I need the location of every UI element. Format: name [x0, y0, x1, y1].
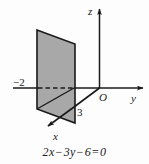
- figure-caption: 2x−3y−6=0: [0, 145, 149, 160]
- x-axis-back-segment: [74, 88, 100, 107]
- x-axis-label: x: [52, 130, 58, 142]
- x-intercept-label: 3: [77, 106, 83, 118]
- caption-minus-2: −: [76, 145, 85, 159]
- y-intercept-label: −2: [13, 76, 25, 88]
- figure-container: z y x O −2 3 2x−3y−6=0: [0, 0, 149, 164]
- caption-minus-1: −: [55, 145, 64, 159]
- shaded-plane: [37, 30, 75, 123]
- origin-label: O: [99, 91, 107, 103]
- y-axis-label: y: [130, 92, 136, 104]
- caption-equals: =: [91, 145, 100, 159]
- caption-var-x: x: [49, 145, 55, 159]
- z-axis-label: z: [87, 5, 93, 17]
- coordinate-figure: z y x O −2 3: [0, 0, 149, 164]
- caption-var-y: y: [70, 145, 76, 159]
- caption-rhs: 0: [100, 145, 106, 159]
